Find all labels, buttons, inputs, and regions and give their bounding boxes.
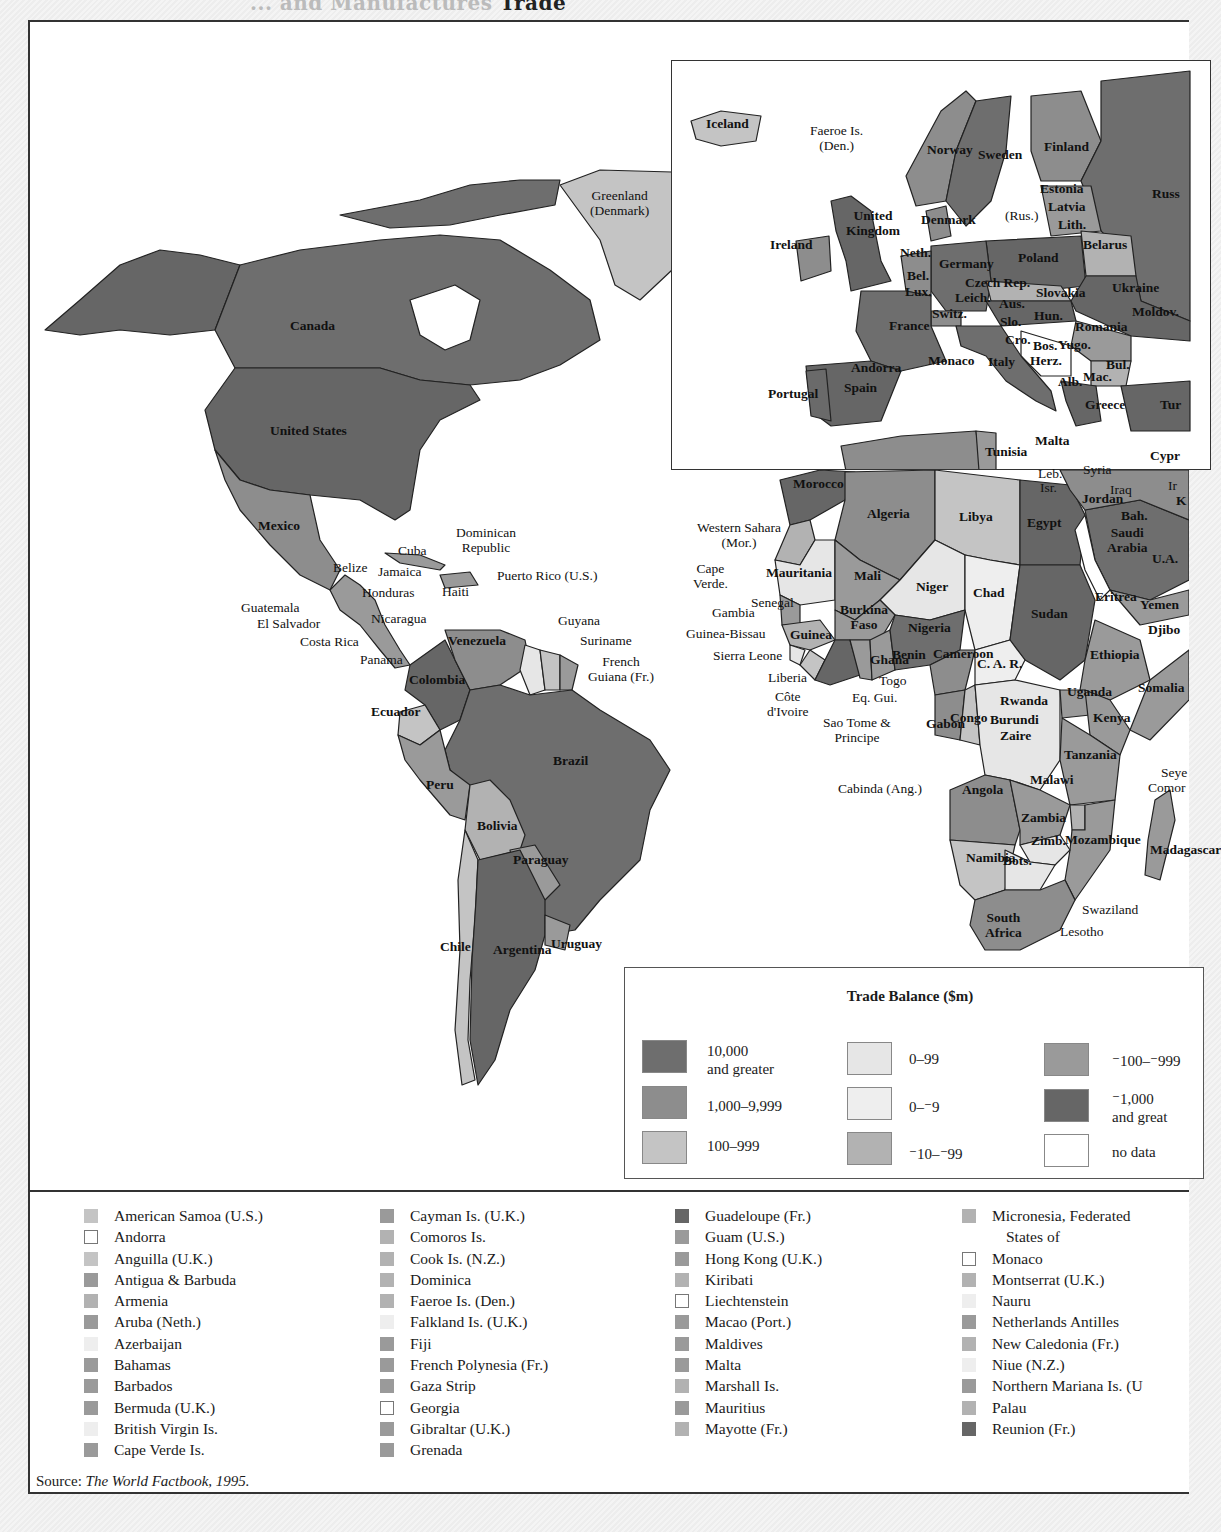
small-country-name: Andorra bbox=[114, 1228, 166, 1245]
map-label: Denmark bbox=[921, 212, 976, 227]
small-country-item: American Samoa (U.S.) bbox=[84, 1206, 263, 1227]
legend-swatch-neg100-neg999 bbox=[1044, 1043, 1089, 1076]
small-country-name: Mayotte (Fr.) bbox=[705, 1420, 788, 1437]
small-country-name: Bermuda (U.K.) bbox=[114, 1399, 215, 1416]
map-label: CapeVerde. bbox=[693, 561, 728, 591]
shade-swatch bbox=[675, 1230, 689, 1244]
small-country-item: Antigua & Barbuda bbox=[84, 1270, 263, 1291]
map-label: Algeria bbox=[867, 506, 910, 521]
small-country-name: Guam (U.S.) bbox=[705, 1228, 785, 1245]
shade-swatch bbox=[962, 1337, 976, 1351]
small-country-name: Barbados bbox=[114, 1377, 173, 1394]
small-country-name: Dominica bbox=[410, 1271, 471, 1288]
small-country-name: Gaza Strip bbox=[410, 1377, 476, 1394]
map-label: Cabinda (Ang.) bbox=[838, 781, 922, 796]
map-label-name: Nicaragua bbox=[371, 611, 426, 626]
map-label-name: Czech Rep. bbox=[965, 275, 1030, 290]
map-label: UnitedKingdom bbox=[846, 208, 900, 238]
legend-label-neg1000-plus: ⁻1,000 and great bbox=[1112, 1090, 1167, 1126]
map-label: Rwanda bbox=[1000, 693, 1048, 708]
map-label-name: Rwanda bbox=[1000, 693, 1048, 708]
map-label-name: Liberia bbox=[768, 670, 807, 685]
shade-swatch bbox=[675, 1422, 689, 1436]
map-label-name: Uganda bbox=[1067, 684, 1112, 699]
legend-label-0-99: 0–99 bbox=[909, 1050, 939, 1068]
shade-swatch bbox=[84, 1358, 98, 1372]
map-label-name: Morocco bbox=[793, 476, 844, 491]
small-country-item: Barbados bbox=[84, 1376, 263, 1397]
map-label: Isr. bbox=[1040, 480, 1057, 495]
small-country-item: Bahamas bbox=[84, 1355, 263, 1376]
map-label-name: Denmark bbox=[921, 212, 976, 227]
small-country-name: Azerbaijan bbox=[114, 1335, 182, 1352]
map-label-name: Kenya bbox=[1093, 710, 1131, 725]
map-label: Uruguay bbox=[551, 936, 602, 951]
map-label: Yugo. bbox=[1058, 337, 1091, 352]
map-label: Greece bbox=[1085, 397, 1125, 412]
shade-swatch bbox=[380, 1401, 394, 1415]
small-country-name: Cape Verde Is. bbox=[114, 1441, 205, 1458]
small-country-name: Falkland Is. (U.K.) bbox=[410, 1313, 528, 1330]
map-label: SouthAfrica bbox=[985, 910, 1022, 940]
map-label: FrenchGuiana (Fr.) bbox=[588, 654, 654, 684]
map-label: Nicaragua bbox=[371, 611, 426, 626]
shade-swatch bbox=[962, 1209, 976, 1223]
map-label-name: Germany bbox=[939, 256, 994, 271]
small-country-name: Faeroe Is. (Den.) bbox=[410, 1292, 515, 1309]
small-country-name: Northern Mariana Is. (U bbox=[992, 1377, 1143, 1394]
map-label-name: Isr. bbox=[1040, 480, 1057, 495]
legend-swatch-10000-plus bbox=[642, 1040, 687, 1073]
small-country-item: Azerbaijan bbox=[84, 1334, 263, 1355]
small-country-name: Micronesia, Federated bbox=[992, 1207, 1131, 1224]
map-label: El Salvador bbox=[257, 616, 320, 631]
map-label-name: Andorra bbox=[851, 360, 901, 375]
map-label: C. A. R. bbox=[977, 656, 1022, 671]
map-label-name: Guinea bbox=[790, 627, 832, 642]
map-label: Lux. bbox=[905, 284, 932, 299]
legend-label-10000-plus: 10,000 and greater bbox=[707, 1042, 774, 1078]
map-label: Russ bbox=[1152, 186, 1180, 201]
map-label: DominicanRepublic bbox=[456, 525, 516, 555]
map-label-sub: (Mor.) bbox=[697, 535, 781, 550]
map-label: Malawi bbox=[1030, 772, 1074, 787]
small-country-item: Micronesia, Federated bbox=[962, 1206, 1143, 1227]
map-label: Honduras bbox=[362, 585, 415, 600]
map-label-name: Sweden bbox=[978, 147, 1022, 162]
map-label-name: Moldov. bbox=[1132, 304, 1179, 319]
map-label: Western Sahara(Mor.) bbox=[697, 520, 781, 550]
map-label: Mac. bbox=[1083, 369, 1112, 384]
map-label-name: Portugal bbox=[768, 386, 818, 401]
shade-swatch bbox=[84, 1337, 98, 1351]
map-label-name: Latvia bbox=[1048, 199, 1086, 214]
small-country-name: Kiribati bbox=[705, 1271, 753, 1288]
map-label-name: Brazil bbox=[553, 753, 588, 768]
shade-swatch bbox=[84, 1209, 98, 1223]
small-country-name: Montserrat (U.K.) bbox=[992, 1271, 1104, 1288]
small-country-name: Armenia bbox=[114, 1292, 168, 1309]
map-label-name: South bbox=[985, 910, 1022, 925]
map-label-name: Panama bbox=[360, 652, 403, 667]
map-label-name: Lith. bbox=[1058, 217, 1086, 232]
map-label-name: Gambia bbox=[712, 605, 755, 620]
map-label: Jordan bbox=[1082, 491, 1123, 506]
map-label: Faeroe Is.(Den.) bbox=[810, 123, 863, 153]
source-citation: Source: The World Factbook, 1995. bbox=[36, 1473, 250, 1490]
map-label: Canada bbox=[290, 318, 335, 333]
small-country-name: Georgia bbox=[410, 1399, 460, 1416]
map-label: Guyana bbox=[558, 613, 600, 628]
map-label-name: Western Sahara bbox=[697, 520, 781, 535]
map-label: Mexico bbox=[258, 518, 300, 533]
map-label-name: Alb. bbox=[1058, 374, 1082, 389]
small-country-item: Monaco bbox=[962, 1249, 1143, 1270]
shade-swatch bbox=[962, 1273, 976, 1287]
map-label: Bots. bbox=[1003, 853, 1032, 868]
small-country-item: Mayotte (Fr.) bbox=[675, 1419, 822, 1440]
region-canada bbox=[215, 235, 600, 385]
map-label-name: Bots. bbox=[1003, 853, 1032, 868]
map-label-name: Bolivia bbox=[477, 818, 518, 833]
small-country-item: Guam (U.S.) bbox=[675, 1227, 822, 1248]
map-label-name: Djibo bbox=[1148, 622, 1180, 637]
map-label-name: Nigeria bbox=[908, 620, 951, 635]
map-label: Switz. bbox=[932, 306, 967, 321]
map-label-name: United bbox=[846, 208, 900, 223]
